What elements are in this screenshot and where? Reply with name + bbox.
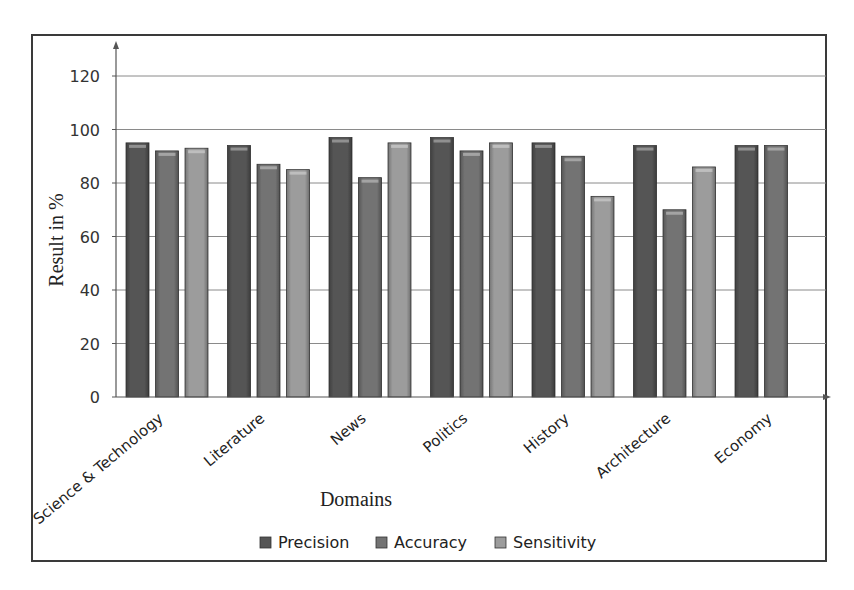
- bar: [562, 156, 585, 397]
- bar: [287, 170, 310, 397]
- y-axis-title: Result in %: [45, 193, 67, 286]
- x-category-label: News: [327, 409, 370, 449]
- bar: [490, 143, 513, 397]
- bar: [532, 143, 555, 397]
- x-category-label: Architecture: [592, 409, 674, 482]
- legend-label: Accuracy: [394, 533, 467, 552]
- x-category-label: Literature: [200, 409, 268, 470]
- x-axis-category-labels: Science & TechnologyLiteratureNewsPoliti…: [30, 409, 776, 528]
- bar: [388, 143, 411, 397]
- legend-swatch-icon: [260, 537, 271, 548]
- bar: [693, 167, 716, 397]
- y-tick-label: 120: [69, 67, 100, 86]
- x-category-label: Economy: [711, 409, 776, 467]
- bar: [156, 151, 179, 397]
- x-axis-title: Domains: [320, 488, 392, 510]
- legend: PrecisionAccuracySensitivity: [260, 533, 596, 552]
- bar: [257, 164, 280, 397]
- bar: [126, 143, 149, 397]
- x-category-label: Science & Technology: [30, 409, 167, 528]
- y-tick-label: 20: [80, 335, 100, 354]
- x-axis-arrow-icon: [823, 394, 831, 400]
- y-axis-arrow-icon: [113, 41, 119, 49]
- y-tick-label: 0: [90, 388, 100, 407]
- bar: [431, 138, 454, 397]
- bar: [735, 146, 758, 397]
- y-tick-label: 60: [80, 228, 100, 247]
- bar: [185, 148, 208, 397]
- legend-label: Precision: [278, 533, 349, 552]
- bar: [663, 210, 686, 397]
- y-axis-ticks: 020406080100120: [69, 67, 116, 407]
- bar: [228, 146, 251, 397]
- bar: [359, 178, 382, 397]
- bar: [634, 146, 657, 397]
- bar-chart: 020406080100120 Science & TechnologyLite…: [0, 0, 854, 590]
- y-tick-label: 100: [69, 121, 100, 140]
- bar: [329, 138, 352, 397]
- legend-label: Sensitivity: [513, 533, 596, 552]
- bar: [460, 151, 483, 397]
- bars: [126, 138, 788, 397]
- y-tick-label: 80: [80, 174, 100, 193]
- y-tick-label: 40: [80, 281, 100, 300]
- x-category-label: History: [520, 409, 573, 457]
- legend-swatch-icon: [495, 537, 506, 548]
- legend-swatch-icon: [376, 537, 387, 548]
- bar: [765, 146, 788, 397]
- x-category-label: Politics: [420, 409, 472, 456]
- bar: [591, 196, 614, 397]
